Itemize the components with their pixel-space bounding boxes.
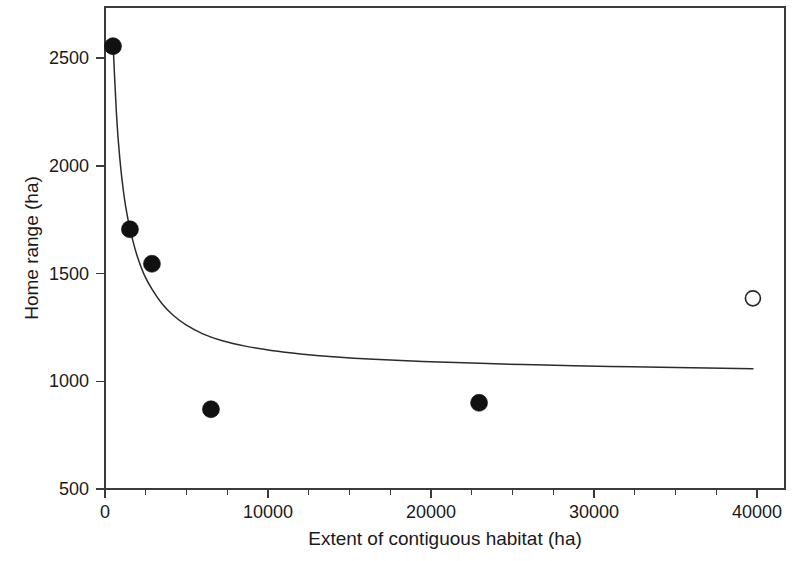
x-tick-label: 20000 [406, 502, 456, 522]
home-range-scatter-plot: 010000200003000040000 500100015002000250… [0, 0, 792, 561]
y-tick-label: 500 [59, 479, 89, 499]
data-point-open [745, 291, 760, 306]
x-tick-label: 40000 [732, 502, 782, 522]
x-tick-label: 0 [100, 502, 110, 522]
y-tick-label: 1500 [49, 264, 89, 284]
chart-figure: 010000200003000040000 500100015002000250… [0, 0, 792, 561]
chart-background [0, 0, 792, 561]
y-tick-label: 2000 [49, 156, 89, 176]
x-tick-label: 30000 [569, 502, 619, 522]
x-tick-label: 10000 [243, 502, 293, 522]
data-point-filled [104, 38, 121, 55]
data-point-filled [121, 221, 138, 238]
x-axis-title: Extent of contiguous habitat (ha) [308, 528, 582, 549]
y-tick-label: 2500 [49, 48, 89, 68]
data-point-filled [471, 394, 488, 411]
data-point-filled [143, 255, 160, 272]
y-axis-title: Home range (ha) [21, 176, 42, 320]
data-point-filled [202, 401, 219, 418]
y-tick-label: 1000 [49, 371, 89, 391]
